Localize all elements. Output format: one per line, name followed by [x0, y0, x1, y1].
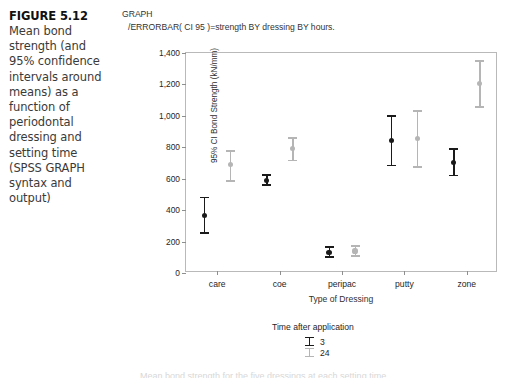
x-tick-label-coe: coe	[273, 279, 287, 289]
legend-item-3: 3	[304, 336, 354, 347]
errorbar-cap-upper	[226, 150, 235, 152]
x-tick-label-peripac: peripac	[328, 279, 356, 289]
mean-marker	[326, 250, 331, 255]
errorbar-cap-upper	[449, 148, 458, 150]
y-tick-label: 200	[140, 237, 186, 247]
legend-rows: 324	[272, 336, 354, 358]
errorbar-key-icon	[304, 347, 315, 358]
y-tick-label: 400	[140, 205, 186, 215]
legend-item-label: 24	[320, 348, 330, 358]
x-tick-mark	[217, 271, 218, 275]
spss-syntax-block: GRAPH /ERRORBAR( CI 95 )=strength BY dre…	[122, 8, 335, 33]
errorbar-cap-upper	[475, 60, 484, 62]
errorbar-cap-lower	[200, 232, 209, 234]
x-tick-label-zone: zone	[457, 279, 476, 289]
errorbar-cap-lower	[351, 255, 360, 257]
y-axis-title: 95% CI Bond Strength (kN/mm)	[210, 26, 219, 186]
plot-frame: 95% CI Bond Strength (kN/mm) 02004006008…	[185, 52, 497, 272]
errorbar-cap-lower	[413, 166, 422, 168]
chart-region: 95% CI Bond Strength (kN/mm) 02004006008…	[122, 40, 510, 378]
x-tick-label-care: care	[209, 279, 226, 289]
legend-item-label: 3	[320, 337, 325, 347]
mean-marker	[477, 81, 482, 86]
mean-marker	[389, 138, 394, 143]
errorbar-key-icon	[304, 336, 315, 347]
legend-title: Time after application	[272, 322, 354, 332]
mean-marker	[264, 178, 269, 183]
errorbar-cap-lower	[325, 256, 334, 258]
errorbar-cap-lower	[226, 180, 235, 182]
figure-caption-block: FIGURE 5.12 Mean bond strength (and 95% …	[9, 9, 113, 206]
x-tick-mark	[342, 271, 343, 275]
errorbar-cap-lower	[288, 160, 297, 162]
y-tick-label: 600	[140, 174, 186, 184]
footer-cropped-text: Mean bond strength for the five dressing…	[140, 371, 510, 378]
syntax-line-graph: GRAPH	[122, 8, 335, 21]
errorbar-cap-lower	[387, 165, 396, 167]
mean-marker	[415, 136, 420, 141]
mean-marker	[352, 248, 357, 253]
y-tick-label: 1,000	[140, 111, 186, 121]
mean-marker	[228, 162, 233, 167]
errorbar-cap-upper	[325, 246, 334, 248]
x-tick-mark	[404, 271, 405, 275]
mean-marker	[451, 160, 456, 165]
x-tick-mark	[280, 271, 281, 275]
errorbar-cap-upper	[200, 197, 209, 199]
mean-marker	[202, 213, 207, 218]
errorbar-cap-upper	[262, 174, 271, 176]
mean-marker	[290, 146, 295, 151]
x-tick-label-putty: putty	[395, 279, 414, 289]
errorbar-cap-upper	[351, 245, 360, 247]
figure-caption-text: Mean bond strength (and 95% confidence i…	[9, 24, 113, 206]
legend-item-24: 24	[304, 347, 354, 358]
y-tick-label: 0	[140, 268, 186, 278]
errorbar-cap-upper	[288, 137, 297, 139]
errorbar-cap-upper	[387, 115, 396, 117]
y-tick-label: 800	[140, 142, 186, 152]
chart-legend: Time after application 324	[272, 322, 354, 358]
y-tick-label: 1,400	[140, 48, 186, 58]
y-tick-label: 1,200	[140, 79, 186, 89]
figure-number: FIGURE 5.12	[9, 9, 113, 24]
x-axis-title: Type of Dressing	[186, 294, 496, 304]
x-tick-mark	[467, 271, 468, 275]
errorbar-cap-lower	[449, 175, 458, 177]
syntax-line-errorbar: /ERRORBAR( CI 95 )=strength BY dressing …	[122, 21, 335, 34]
errorbar-cap-lower	[475, 106, 484, 108]
errorbar-cap-lower	[262, 184, 271, 186]
errorbar-cap-upper	[413, 110, 422, 112]
